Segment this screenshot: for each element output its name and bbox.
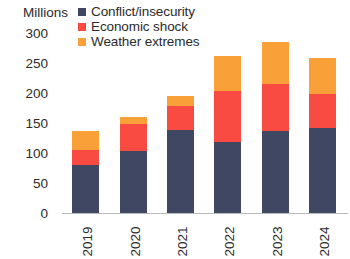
legend-item-economic-shock: Economic shock <box>78 20 199 34</box>
stacked-bar-chart: Millions Conflict/insecurity Economic sh… <box>0 0 350 259</box>
y-axis-tick-label: 250 <box>25 56 48 71</box>
bar-group[interactable] <box>262 42 289 213</box>
x-axis-tick-label: 2022 <box>222 226 237 256</box>
bar-segment[interactable] <box>120 117 147 124</box>
bar-segment[interactable] <box>262 131 289 213</box>
bar-segment[interactable] <box>214 142 241 213</box>
x-axis-tick-label: 2024 <box>316 226 331 256</box>
bar-segment[interactable] <box>309 58 336 95</box>
bar-segment[interactable] <box>309 128 336 213</box>
y-axis: 050100150200250300 <box>0 0 62 259</box>
bar-segment[interactable] <box>72 165 99 213</box>
legend-item-conflict-insecurity: Conflict/insecurity <box>78 5 199 19</box>
y-axis-tick-label: 100 <box>25 146 48 161</box>
x-axis-tick: 2024 <box>309 220 336 250</box>
legend-swatch-conflict-insecurity <box>78 8 86 16</box>
y-axis-tick-label: 200 <box>25 86 48 101</box>
x-axis-tick: 2021 <box>167 220 194 250</box>
bar-segment[interactable] <box>214 91 241 142</box>
legend-label-economic-shock: Economic shock <box>91 20 188 34</box>
x-axis-tick-label: 2020 <box>127 226 142 256</box>
x-axis: 201920202021202220232024 <box>62 214 346 259</box>
bar-segment[interactable] <box>72 131 99 150</box>
legend-swatch-economic-shock <box>78 23 86 31</box>
bar-segment[interactable] <box>167 130 194 213</box>
x-axis-tick: 2019 <box>72 220 99 250</box>
bar-segment[interactable] <box>167 106 194 129</box>
x-axis-tick: 2022 <box>214 220 241 250</box>
bar-segment[interactable] <box>309 94 336 128</box>
bar-segment[interactable] <box>262 42 289 84</box>
bar-segment[interactable] <box>72 150 99 165</box>
bar-segment[interactable] <box>167 96 194 106</box>
bar-segment[interactable] <box>120 124 147 151</box>
bar-segment[interactable] <box>120 151 147 213</box>
bar-group[interactable] <box>120 117 147 213</box>
bar-segment[interactable] <box>214 56 241 91</box>
bar-segment[interactable] <box>262 84 289 131</box>
x-axis-tick-label: 2021 <box>174 226 189 256</box>
x-axis-tick-label: 2023 <box>269 226 284 256</box>
bar-group[interactable] <box>167 96 194 213</box>
x-axis-tick: 2023 <box>262 220 289 250</box>
y-axis-tick-label: 0 <box>40 206 48 221</box>
y-axis-tick-label: 150 <box>25 116 48 131</box>
x-axis-tick: 2020 <box>120 220 147 250</box>
y-axis-tick-label: 50 <box>33 176 48 191</box>
x-axis-tick-label: 2019 <box>80 226 95 256</box>
bar-group[interactable] <box>72 131 99 213</box>
y-axis-tick-label: 300 <box>25 26 48 41</box>
legend-label-conflict-insecurity: Conflict/insecurity <box>91 5 195 19</box>
plot-area <box>62 33 346 213</box>
bar-group[interactable] <box>214 56 241 213</box>
bar-group[interactable] <box>309 58 336 213</box>
